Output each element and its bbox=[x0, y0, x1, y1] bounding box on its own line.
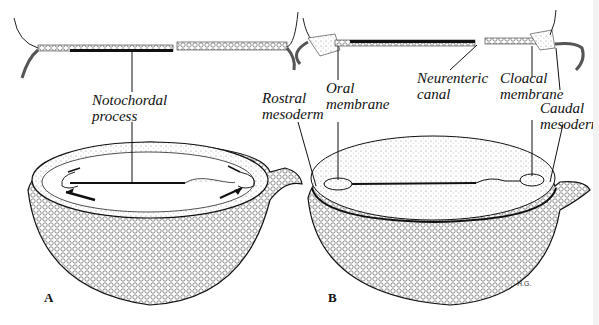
label-line: Cloacal bbox=[500, 70, 563, 86]
label-line: Rostral bbox=[262, 90, 324, 106]
neurenteric-canal-leader bbox=[450, 45, 477, 70]
label-line: process bbox=[92, 108, 167, 124]
figure-drawing bbox=[0, 0, 599, 325]
label-line: membrane bbox=[326, 96, 389, 112]
embryo-figure: Notochordal process Rostral mesoderm Ora… bbox=[0, 0, 599, 325]
label-line: Neurenteric bbox=[417, 70, 488, 86]
label-caudal-mesoderm: Caudal mesodern bbox=[540, 100, 598, 132]
label-line: Notochordal bbox=[92, 92, 167, 108]
label-neurenteric-canal: Neurenteric canal bbox=[417, 70, 488, 102]
label-cloacal-membrane: Cloacal membrane bbox=[500, 70, 563, 102]
label-line: Oral bbox=[326, 80, 389, 96]
label-line: mesodern bbox=[540, 116, 598, 132]
embryo-b bbox=[308, 136, 590, 305]
section-b-crosssection bbox=[296, 10, 583, 70]
label-notochordal-process: Notochordal process bbox=[92, 92, 167, 124]
label-rostral-mesoderm: Rostral mesoderm bbox=[262, 90, 324, 122]
panel-label-a: A bbox=[44, 290, 53, 306]
caudal-mesoderm-leader bbox=[550, 124, 563, 182]
page-edge bbox=[593, 0, 599, 325]
section-a-crosssection bbox=[14, 12, 298, 78]
panel-label-b: B bbox=[328, 290, 337, 306]
label-line: mesoderm bbox=[262, 106, 324, 122]
label-oral-membrane: Oral membrane bbox=[326, 80, 389, 112]
artist-signature: H.G. bbox=[517, 280, 531, 287]
label-line: canal bbox=[417, 86, 488, 102]
rostral-mesoderm-leader bbox=[298, 122, 316, 186]
label-line: Caudal bbox=[540, 100, 598, 116]
embryo-a bbox=[28, 142, 302, 305]
